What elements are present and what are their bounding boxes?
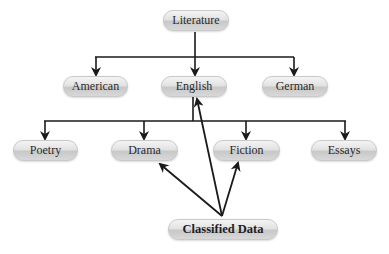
- node-essays[interactable]: Essays: [311, 140, 377, 161]
- node-label: Literature: [172, 13, 219, 28]
- node-label: American: [72, 79, 119, 94]
- node-poetry[interactable]: Poetry: [13, 140, 78, 161]
- node-label: English: [176, 79, 213, 94]
- node-label: Classified Data: [183, 222, 264, 237]
- node-label: German: [276, 79, 315, 94]
- edges-layer: [0, 0, 389, 254]
- node-classified-data[interactable]: Classified Data: [168, 219, 278, 240]
- node-literature[interactable]: Literature: [163, 10, 229, 31]
- node-english[interactable]: English: [161, 76, 227, 97]
- node-american[interactable]: American: [63, 76, 128, 97]
- node-label: Poetry: [30, 143, 61, 158]
- node-label: Essays: [328, 143, 361, 158]
- node-german[interactable]: German: [262, 76, 328, 97]
- node-fiction[interactable]: Fiction: [213, 140, 280, 161]
- tree-connector-literature: [95, 32, 294, 75]
- node-label: Drama: [128, 143, 161, 158]
- node-drama[interactable]: Drama: [111, 140, 178, 161]
- tree-connector-english: [44, 97, 346, 139]
- node-label: Fiction: [229, 143, 263, 158]
